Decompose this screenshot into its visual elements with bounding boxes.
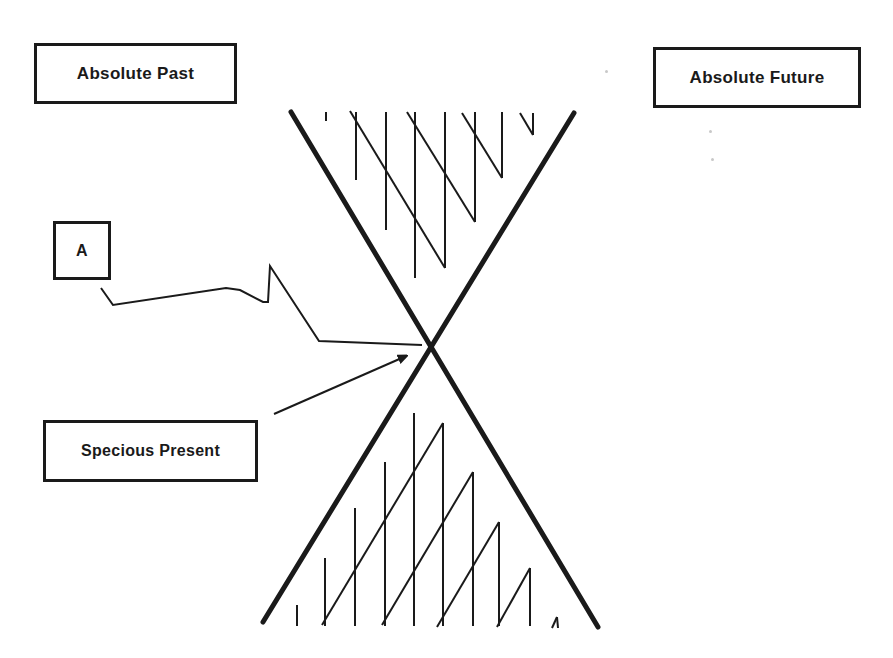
light-cone-edges bbox=[263, 112, 598, 627]
future-to-past-edge bbox=[263, 113, 574, 622]
hatch-diagonal-line bbox=[497, 568, 530, 627]
scan-speck bbox=[605, 70, 608, 73]
hatch-diagonal-line bbox=[462, 113, 502, 178]
absolute-past-box: Absolute Past bbox=[34, 43, 237, 104]
specious-present-label: Specious Present bbox=[81, 442, 220, 460]
hatch-diagonal-line bbox=[350, 111, 445, 268]
hatch-diagonal-line bbox=[322, 423, 443, 625]
specious-present-arrow bbox=[274, 357, 404, 414]
connector-a-to-vertex bbox=[101, 266, 422, 345]
hatch-diagonal-line bbox=[382, 472, 473, 625]
scan-speck bbox=[711, 158, 714, 161]
absolute-past-label: Absolute Past bbox=[77, 64, 194, 84]
absolute-past-hatching bbox=[297, 413, 558, 628]
point-a-box: A bbox=[53, 221, 111, 280]
absolute-future-label: Absolute Future bbox=[690, 68, 825, 88]
hatch-diagonal-line bbox=[520, 113, 533, 135]
scan-speck bbox=[709, 130, 712, 133]
hatch-diagonal-line bbox=[557, 617, 558, 628]
absolute-future-box: Absolute Future bbox=[653, 47, 861, 108]
hatch-diagonal-line bbox=[407, 112, 475, 222]
point-a-label: A bbox=[76, 242, 88, 260]
hatch-diagonal-line bbox=[437, 522, 499, 627]
specious-present-box: Specious Present bbox=[43, 420, 258, 482]
absolute-future-hatching bbox=[326, 111, 533, 278]
